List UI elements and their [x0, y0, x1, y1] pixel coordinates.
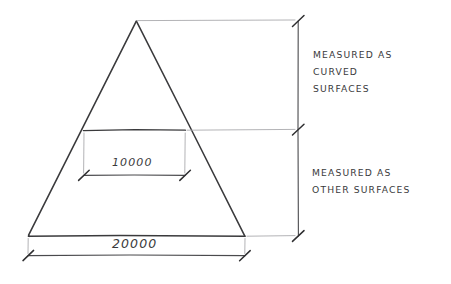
triangle-chord-line — [83, 130, 185, 131]
annotation-other-line-2: OTHER SURFACES — [312, 181, 411, 198]
annotation-curved-line-1: MEASURED AS — [313, 46, 393, 63]
upper-extension-lines — [138, 20, 296, 236]
base-dimension-label: 20000 — [112, 236, 157, 251]
annotation-other-surfaces: MEASURED AS OTHER SURFACES — [312, 164, 411, 198]
annotation-curved-line-3: SURFACES — [313, 80, 393, 97]
base-extension-line — [247, 236, 295, 237]
annotation-curved-line-2: CURVED — [313, 63, 393, 80]
inner-dimension-label: 10000 — [112, 156, 153, 169]
chord-extension-line — [187, 129, 295, 130]
drawing-canvas: .edge { fill: none; stroke: #3a3a3c; str… — [0, 0, 451, 284]
triangle-right-edge — [136, 21, 244, 235]
base-dimension-line — [28, 255, 245, 256]
triangle-outline — [28, 21, 245, 236]
annotation-other-line-1: MEASURED AS — [312, 164, 411, 181]
technical-sketch-svg: .edge { fill: none; stroke: #3a3a3c; str… — [0, 0, 451, 284]
apex-extension-line — [138, 20, 296, 21]
triangle-left-edge — [29, 21, 137, 236]
annotation-curved-surfaces: MEASURED AS CURVED SURFACES — [313, 46, 393, 97]
